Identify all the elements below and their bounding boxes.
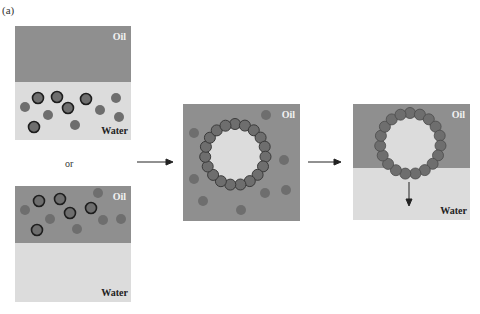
droplet [183, 104, 300, 221]
box-emulsion-droplet: Oil [183, 104, 300, 221]
droplet [353, 104, 470, 220]
box-droplet-sedimenting: Oil Water [353, 104, 470, 220]
arrow-down-icon [406, 182, 412, 206]
